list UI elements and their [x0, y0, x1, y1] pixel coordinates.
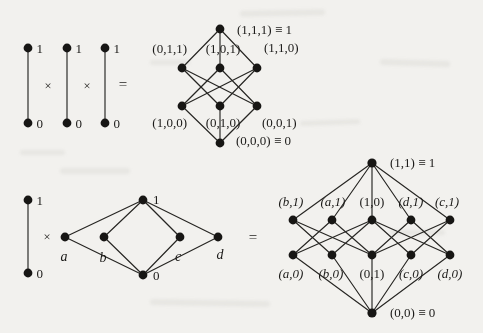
bottom-figure: 1 0 × 1 0 a b c [24, 155, 463, 320]
label-p-b1: (b,1) [279, 194, 304, 209]
chain-1: 1 0 [24, 41, 43, 131]
chain3-bottom-node [101, 119, 110, 128]
edge [332, 255, 372, 313]
node-p-10 [368, 216, 377, 225]
times-operator-3: × [43, 230, 50, 244]
label-m-c: c [175, 249, 182, 264]
node-100 [178, 102, 187, 111]
bottom-chain-top-label: 1 [37, 193, 44, 208]
bottom-chain-bottom-node [24, 269, 33, 278]
node-m-top [139, 196, 148, 205]
node-p-d1 [407, 216, 416, 225]
node-111 [216, 25, 225, 34]
chain-2: 1 0 [63, 41, 82, 131]
node-m-c [176, 233, 185, 242]
label-p-00: (0,0) ≡ 0 [390, 305, 435, 320]
node-m-a [61, 233, 70, 242]
label-m-top: 1 [153, 192, 160, 207]
product-lattice: (1,1) ≡ 1 (b,1) (a,1) (1,0) (d,1) (c,1) … [279, 155, 463, 320]
chain-3: 1 0 [101, 41, 120, 131]
cube-lattice: (1,1,1) ≡ 1 (0,1,1) (1,0,1) (1,1,0) (1,0… [152, 22, 298, 148]
label-p-d1: (d,1) [399, 194, 424, 209]
scanned-book-figure: 1 0 × 1 0 × 1 0 = [0, 0, 483, 333]
label-p-a1: (a,1) [321, 194, 346, 209]
label-p-c0: (c,0) [399, 266, 423, 281]
label-p-11: (1,1) ≡ 1 [390, 155, 435, 170]
label-m-d: d [217, 247, 225, 262]
bottom-chain: 1 0 [24, 193, 43, 281]
node-p-00 [367, 308, 376, 317]
chain3-bottom-label: 0 [114, 116, 121, 131]
edge [143, 200, 180, 237]
chain2-bottom-label: 0 [76, 116, 83, 131]
node-p-a0 [289, 251, 298, 260]
chain2-bottom-node [63, 119, 72, 128]
edge [65, 200, 143, 237]
node-p-01 [368, 251, 377, 260]
edge [293, 163, 372, 220]
edge [293, 255, 372, 313]
label-111: (1,1,1) ≡ 1 [237, 22, 292, 37]
chain1-bottom-node [24, 119, 33, 128]
times-operator-1: × [44, 79, 51, 93]
bottom-chain-bottom-label: 0 [37, 266, 44, 281]
node-p-b0 [328, 251, 337, 260]
chain1-bottom-label: 0 [37, 116, 44, 131]
label-p-01: (0,1) [360, 266, 385, 281]
m-poset: 1 0 a b c d [61, 192, 225, 283]
label-011: (0,1,1) [152, 41, 187, 56]
top-figure: 1 0 × 1 0 × 1 0 = [24, 22, 299, 148]
equals-operator-top: = [119, 76, 127, 92]
bottom-chain-top-node [24, 196, 33, 205]
product-edges [293, 163, 450, 313]
label-p-a0: (a,0) [279, 266, 304, 281]
node-110 [253, 64, 262, 73]
chain1-top-node [24, 44, 33, 53]
label-110: (1,1,0) [264, 40, 299, 55]
node-m-d [214, 233, 223, 242]
figure-canvas: 1 0 × 1 0 × 1 0 = [0, 0, 483, 333]
node-011 [178, 64, 187, 73]
times-operator-2: × [83, 79, 90, 93]
chain3-top-node [101, 44, 110, 53]
label-100: (1,0,0) [152, 115, 187, 130]
node-m-b [100, 233, 109, 242]
node-p-b1 [289, 216, 298, 225]
node-000 [216, 139, 225, 148]
node-010 [216, 102, 225, 111]
label-p-b0: (b,0) [319, 266, 344, 281]
node-p-a1 [328, 216, 337, 225]
node-m-bottom [139, 271, 148, 280]
node-p-c0 [407, 251, 416, 260]
node-p-d0 [446, 251, 455, 260]
edge [104, 237, 143, 275]
label-010: (0,1,0) [206, 115, 241, 130]
m-poset-edges [65, 200, 218, 275]
label-m-bottom: 0 [153, 268, 160, 283]
chain2-top-node [63, 44, 72, 53]
label-001: (0,0,1) [262, 115, 297, 130]
label-101: (1,0,1) [206, 41, 241, 56]
chain3-top-label: 1 [114, 41, 121, 56]
label-m-b: b [100, 250, 107, 265]
equals-operator-bottom: = [249, 229, 257, 245]
chain1-top-label: 1 [37, 41, 44, 56]
node-p-c1 [446, 216, 455, 225]
node-p-11 [367, 158, 376, 167]
node-101 [216, 64, 225, 73]
label-p-10: (1,0) [360, 194, 385, 209]
label-p-d0: (d,0) [438, 266, 463, 281]
edge [332, 163, 372, 220]
node-001 [253, 102, 262, 111]
chain2-top-label: 1 [76, 41, 83, 56]
edge [372, 163, 411, 220]
edge [104, 200, 143, 237]
label-000: (0,0,0) ≡ 0 [236, 133, 291, 148]
edge [372, 163, 450, 220]
label-m-a: a [61, 249, 68, 264]
label-p-c1: (c,1) [435, 194, 459, 209]
